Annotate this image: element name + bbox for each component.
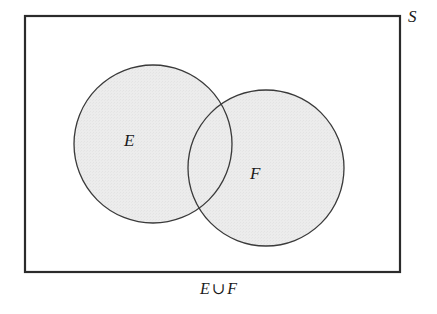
- venn-diagram-canvas: [0, 0, 437, 314]
- set-f-label: F: [250, 165, 260, 182]
- universal-set-label: S: [408, 8, 417, 25]
- set-f-circle-fill: [188, 90, 344, 246]
- caption-union-operator: ∪: [210, 280, 227, 297]
- set-e-label: E: [124, 132, 134, 149]
- caption-right-set: F: [227, 280, 237, 297]
- figure-caption: E∪F: [0, 281, 437, 297]
- venn-diagram-figure: S E F E∪F: [0, 0, 437, 314]
- caption-left-set: E: [200, 280, 210, 297]
